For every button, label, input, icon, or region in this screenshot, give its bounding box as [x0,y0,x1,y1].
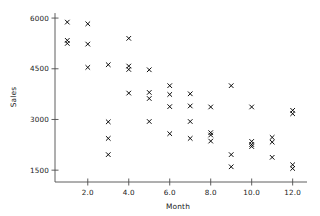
plot-background [0,0,320,216]
y-axis-title: Sales [9,87,18,108]
x-tick-label: 12.0 [284,188,301,197]
scatter-plot-figure: 1500300045006000 2.04.06.08.010.012.0 Mo… [0,0,320,216]
y-tick-label: 1500 [30,166,49,175]
x-tick-label: 6.0 [164,188,176,197]
plot-canvas: 1500300045006000 2.04.06.08.010.012.0 Mo… [0,0,320,216]
x-tick-label: 4.0 [123,188,135,197]
y-tick-label: 3000 [30,115,49,124]
x-axis-title: Month [166,202,190,211]
x-tick-label: 8.0 [205,188,217,197]
x-tick-label: 10.0 [243,188,260,197]
y-tick-label: 4500 [30,64,49,73]
x-tick-label: 2.0 [82,188,94,197]
y-tick-label: 6000 [30,14,49,23]
